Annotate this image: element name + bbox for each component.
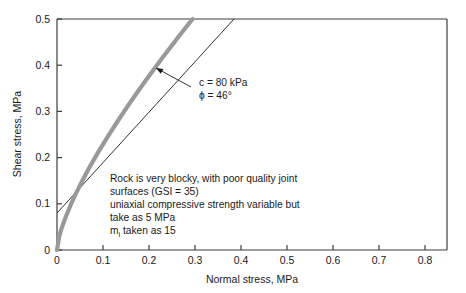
x-tick-label-1: 0.1 (96, 254, 111, 266)
y-axis-ticks (57, 19, 62, 250)
x-tick-label-3: 0.3 (188, 254, 203, 266)
x-tick-label-5: 0.5 (280, 254, 295, 266)
note-line-4: take as 5 MPa (110, 212, 175, 223)
y-tick-label-5: 0.5 (35, 13, 50, 25)
annotation-line-2: ϕ = 46° (199, 90, 232, 101)
note-mi-text: taken as 15 (120, 225, 176, 236)
x-tick-label-6: 0.6 (326, 254, 341, 266)
note-line-2: surfaces (GSI = 35) (110, 186, 199, 197)
note-line-3: uniaxial compressive strength variable b… (110, 199, 300, 210)
annotation-line-1: c = 80 kPa (199, 77, 248, 88)
rock-mass-description-note: Rock is very blocky, with poor quality j… (110, 173, 300, 239)
x-tick-label-7: 0.7 (372, 254, 387, 266)
y-axis-title: Shear stress, MPa (11, 91, 23, 178)
x-tick-label-2: 0.2 (142, 254, 157, 266)
x-tick-label-8: 0.8 (418, 254, 433, 266)
y-tick-label-2: 0.2 (35, 151, 50, 163)
y-tick-label-3: 0.3 (35, 105, 50, 117)
note-mi-symbol: m (110, 225, 119, 236)
x-tick-labels: 0 0.1 0.2 0.3 0.4 0.5 0.6 0.7 0.8 (54, 254, 432, 266)
note-line-1: Rock is very blocky, with poor quality j… (110, 173, 297, 184)
y-tick-label-4: 0.4 (35, 59, 50, 71)
note-line-5: mi taken as 15 (110, 225, 176, 239)
x-tick-label-4: 0.4 (234, 254, 249, 266)
x-tick-label-0: 0 (54, 254, 60, 266)
y-tick-label-0: 0 (44, 244, 50, 256)
y-tick-label-1: 0.1 (35, 197, 50, 209)
x-axis-title: Normal stress, MPa (206, 273, 298, 285)
x-axis-ticks (57, 245, 425, 250)
chart-figure: 0 0.1 0.2 0.3 0.4 0.5 0 0.1 0.2 0.3 0.4 … (0, 0, 466, 293)
annotation-arrow (156, 68, 191, 87)
mohr-coulomb-parameters-annotation: c = 80 kPa ϕ = 46° (199, 77, 248, 101)
y-tick-labels: 0 0.1 0.2 0.3 0.4 0.5 (35, 13, 50, 256)
shear-normal-stress-plot: 0 0.1 0.2 0.3 0.4 0.5 0 0.1 0.2 0.3 0.4 … (0, 0, 466, 293)
